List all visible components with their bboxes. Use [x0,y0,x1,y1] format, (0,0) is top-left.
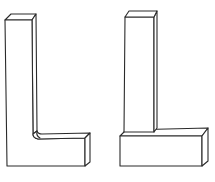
left-l-block [5,14,90,166]
left-l-foot-end-face [85,133,90,166]
left-l-foot-top-face [33,131,90,139]
right-l-base-front-face [120,136,202,166]
right-l-post-top-face [125,11,157,17]
figure-canvas: L-shaped block with rounded inner fillet… [0,0,215,182]
right-l-block [120,11,208,166]
left-l-front-face [5,20,85,166]
left-l-top-face [5,14,36,20]
right-l-post-side-face [154,11,157,132]
l-shapes-drawing [0,0,215,182]
right-l-post-front-face [124,17,154,132]
